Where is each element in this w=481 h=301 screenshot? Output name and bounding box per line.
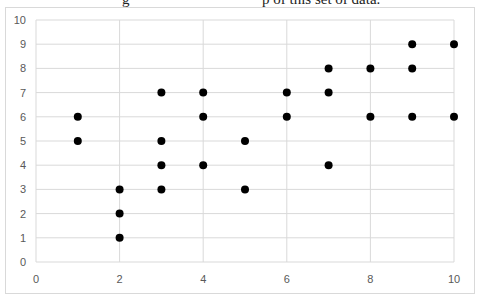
x-tick-label: 2 [117, 273, 123, 285]
data-point-marker [241, 137, 249, 145]
scatter-chart: 012345678910 0246810 [0, 0, 481, 301]
data-point-marker [116, 210, 124, 218]
data-point-marker [74, 113, 82, 121]
data-point-marker [325, 64, 333, 72]
x-tick-label: 4 [200, 273, 206, 285]
data-point-marker [450, 113, 458, 121]
data-point-marker [408, 64, 416, 72]
y-tick-label: 2 [20, 208, 26, 220]
y-tick-label: 7 [20, 87, 26, 99]
y-tick-label: 3 [20, 183, 26, 195]
data-point-marker [408, 113, 416, 121]
y-tick-label: 4 [20, 159, 26, 171]
data-point-marker [283, 113, 291, 121]
y-tick-label: 9 [20, 38, 26, 50]
data-point-marker [157, 89, 165, 97]
y-tick-label: 6 [20, 111, 26, 123]
y-axis-ticks: 012345678910 [14, 14, 26, 268]
data-point-marker [366, 113, 374, 121]
x-axis-ticks: 0246810 [33, 273, 460, 285]
data-point-marker [325, 89, 333, 97]
data-point-marker [116, 234, 124, 242]
data-point-marker [199, 113, 207, 121]
y-tick-label: 1 [20, 232, 26, 244]
data-point-marker [116, 185, 124, 193]
data-point-marker [325, 161, 333, 169]
data-point-marker [366, 64, 374, 72]
data-point-marker [74, 137, 82, 145]
data-point-marker [157, 137, 165, 145]
y-tick-label: 0 [20, 256, 26, 268]
data-point-marker [199, 161, 207, 169]
x-tick-label: 10 [448, 273, 460, 285]
data-point-marker [199, 89, 207, 97]
y-tick-label: 8 [20, 62, 26, 74]
x-tick-label: 8 [367, 273, 373, 285]
data-point-marker [283, 89, 291, 97]
data-point-marker [157, 161, 165, 169]
x-tick-label: 6 [284, 273, 290, 285]
y-tick-label: 5 [20, 135, 26, 147]
x-tick-label: 0 [33, 273, 39, 285]
y-tick-label: 10 [14, 14, 26, 26]
data-point-marker [157, 185, 165, 193]
data-point-marker [408, 40, 416, 48]
data-point-marker [241, 185, 249, 193]
data-point-marker [450, 40, 458, 48]
